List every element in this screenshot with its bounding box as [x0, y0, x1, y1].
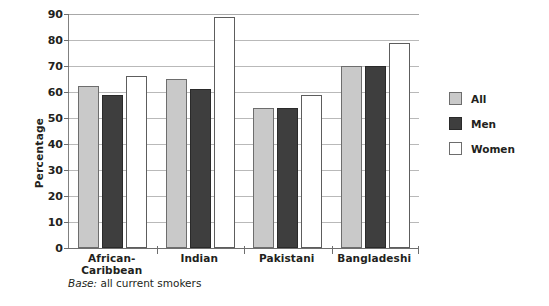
legend-swatch-all-icon: [449, 92, 462, 105]
bar-women: [389, 43, 410, 248]
legend-item-all: All: [449, 86, 545, 111]
bar-all: [253, 108, 274, 248]
chart-legend: All Men Women: [449, 86, 545, 161]
bar-men: [190, 89, 211, 248]
x-axis-label-line: Pakistani: [243, 252, 331, 264]
legend-swatch-women-icon: [449, 142, 462, 155]
x-axis-label-line: Caribbean: [68, 264, 156, 276]
y-tick-label-90: 90: [23, 8, 63, 21]
bar-men: [277, 108, 298, 248]
footnote-base-label: Base:: [68, 277, 97, 289]
bar-group: [157, 14, 245, 248]
bar-group: [69, 14, 157, 248]
legend-item-men: Men: [449, 111, 545, 136]
x-axis-end-tick: [418, 246, 419, 254]
legend-item-women: Women: [449, 136, 545, 161]
bar-all: [78, 86, 99, 249]
legend-swatch-men-icon: [449, 117, 462, 130]
bar-all: [341, 66, 362, 248]
y-tick-mark-0: [64, 248, 69, 249]
footnote-base-text: all current smokers: [97, 277, 201, 289]
y-tick-label-0: 0: [23, 242, 63, 255]
x-axis-label-line: Bangladeshi: [331, 252, 419, 264]
y-tick-label-30: 30: [23, 164, 63, 177]
legend-label-all: All: [471, 93, 486, 105]
x-axis-label: Indian: [156, 252, 244, 264]
legend-label-women: Women: [471, 143, 515, 155]
y-axis-title: Percentage: [33, 118, 45, 189]
y-tick-label-10: 10: [23, 216, 63, 229]
legend-label-men: Men: [471, 118, 496, 130]
plot-area: 9080706050403020100: [68, 14, 418, 248]
chart-footnote: Base: all current smokers: [68, 277, 201, 289]
bar-chart: Percentage 9080706050403020100 African-C…: [0, 0, 549, 306]
bar-men: [365, 66, 386, 248]
bar-group: [332, 14, 420, 248]
y-tick-label-40: 40: [23, 138, 63, 151]
bar-women: [301, 95, 322, 248]
x-axis-label: African-Caribbean: [68, 252, 156, 276]
y-tick-label-20: 20: [23, 190, 63, 203]
y-tick-label-50: 50: [23, 112, 63, 125]
x-axis-label: Pakistani: [243, 252, 331, 264]
x-axis-label-line: African-: [68, 252, 156, 264]
bar-all: [166, 79, 187, 248]
bar-women: [126, 76, 147, 248]
y-tick-label-80: 80: [23, 34, 63, 47]
x-axis-label: Bangladeshi: [331, 252, 419, 264]
bar-men: [102, 95, 123, 248]
x-axis-label-line: Indian: [156, 252, 244, 264]
y-tick-label-70: 70: [23, 60, 63, 73]
bar-women: [214, 17, 235, 248]
bar-group: [244, 14, 332, 248]
y-tick-label-60: 60: [23, 86, 63, 99]
bars-layer: [69, 14, 419, 248]
